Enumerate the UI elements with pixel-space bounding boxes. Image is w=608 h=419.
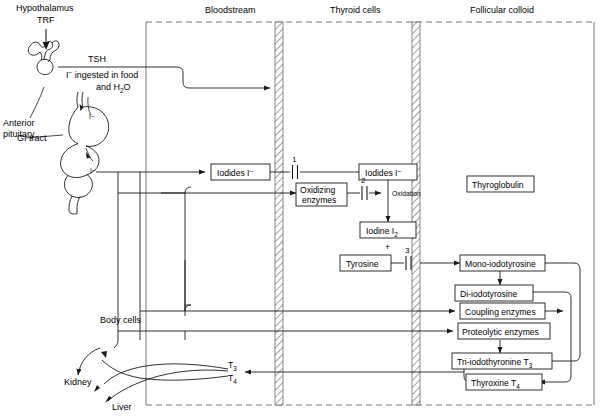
thyroid-pathway-diagram: Bloodstream Thyroid cells Follicular col… xyxy=(0,0,608,419)
column-header-bloodstream: Bloodstream xyxy=(205,5,256,15)
kidney-arrowhead xyxy=(105,396,112,403)
label-tsh: TSH xyxy=(88,54,106,64)
label-iodide-ingestion-line2: and H2O xyxy=(96,82,131,94)
label-oxidation: Oxidation xyxy=(392,190,421,197)
step-number-3: 3 xyxy=(405,246,410,255)
label-liver: Liver xyxy=(112,402,132,412)
box-label-proteolytic-enzymes: Proteolytic enzymes xyxy=(462,327,539,337)
box-label-iodides-blood: Iodides I⁻ xyxy=(217,168,255,178)
box-label-tri-iodothyronine: Tri-iodothyronine T3 xyxy=(457,357,533,369)
box-label-thyroxine: Thyroxine T4 xyxy=(471,378,520,390)
body-cells-arrowhead xyxy=(101,351,107,358)
label-anterior-pituitary-line1: Anterior xyxy=(3,118,35,128)
box-label-oxidizing-line2: enzymes xyxy=(302,195,336,205)
box-label-coupling-enzymes: Coupling enzymes xyxy=(465,307,536,317)
box-label-oxidizing-line1: Oxidizing xyxy=(300,185,336,195)
label-plus-sign: + xyxy=(385,242,390,252)
label-gi-tract: GI tract xyxy=(17,133,47,143)
hypothalamus-pituitary-illustration xyxy=(28,29,59,118)
mono-to-t3-feedback-loop xyxy=(545,263,580,361)
bus-corner-top xyxy=(185,187,191,193)
label-hypothalamus: Hypothalamus xyxy=(16,3,74,13)
body-cells-riser-join xyxy=(114,340,118,348)
label-iodide-ingestion-line1: I− ingested in food xyxy=(66,69,138,80)
column-header-follicular-colloid: Follicular colloid xyxy=(470,5,534,15)
step-number-1: 1 xyxy=(292,155,297,164)
column-header-thyroid-cells: Thyroid cells xyxy=(330,5,381,15)
label-stomach-iodide: I− xyxy=(89,113,95,120)
label-t3-output: T3 xyxy=(228,360,237,372)
label-intestine-iodide: I− xyxy=(90,167,96,174)
diagram-canvas: Bloodstream Thyroid cells Follicular col… xyxy=(0,0,608,419)
box-label-tyrosine: Tyrosine xyxy=(346,259,379,269)
box-label-thyroglobulin: Thyroglobulin xyxy=(472,180,524,190)
box-label-iodides-cell: Iodides I⁻ xyxy=(365,168,403,178)
step-number-2: 2 xyxy=(361,176,366,185)
box-label-mono-iodotyrosine: Mono-iodotyrosine xyxy=(465,259,536,269)
box-label-iodine: Iodine I2 xyxy=(366,226,398,238)
body-cells-to-kidney-arrow xyxy=(78,348,100,375)
label-t4-output: T4 xyxy=(228,373,237,385)
gi-tract-illustration xyxy=(26,92,109,214)
label-trf: TRF xyxy=(37,15,55,25)
box-label-di-iodotyrosine: Di-iodotyrosine xyxy=(460,289,518,299)
membrane-apical xyxy=(412,22,420,405)
membrane-basal xyxy=(275,22,283,405)
liver-arrowhead xyxy=(94,385,100,392)
label-kidney: Kidney xyxy=(64,377,92,387)
label-body-cells: Body cells xyxy=(100,315,142,325)
